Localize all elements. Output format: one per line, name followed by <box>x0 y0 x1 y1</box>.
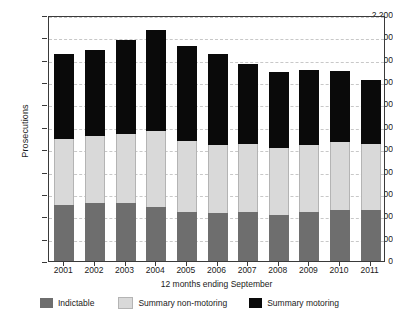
bar-segment-summary-non-motoring <box>238 144 258 212</box>
bar-stack <box>299 15 319 261</box>
bar-segment-summary-non-motoring <box>54 139 74 206</box>
bar-segment-indictable <box>330 210 350 261</box>
bar-segment-summary-non-motoring <box>85 136 105 203</box>
y-axis-tick-mark <box>42 16 47 17</box>
legend-swatch <box>249 298 262 308</box>
y-axis-tick-mark <box>42 150 47 151</box>
bar-segment-indictable <box>238 212 258 261</box>
y-axis-tick-mark <box>42 240 47 241</box>
y-axis-tick-mark <box>42 173 47 174</box>
bar-segment-summary-non-motoring <box>146 131 166 207</box>
bar-stack <box>330 15 350 261</box>
bar-segment-summary-motoring <box>177 46 197 142</box>
bar-stack <box>177 15 197 261</box>
legend-item[interactable]: Summary motoring <box>249 298 339 308</box>
plot-area <box>48 16 385 262</box>
bar-stack <box>116 15 136 261</box>
legend-label: Summary motoring <box>267 298 339 308</box>
bar-segment-indictable <box>54 205 74 261</box>
chart-legend: IndictableSummary non-motoringSummary mo… <box>40 295 380 311</box>
bar-stack <box>85 15 105 261</box>
legend-item[interactable]: Indictable <box>40 298 94 308</box>
bar-segment-indictable <box>299 212 319 261</box>
legend-swatch <box>118 297 133 309</box>
bar-segment-summary-non-motoring <box>177 141 197 212</box>
bar-stack <box>238 15 258 261</box>
bar-stack <box>361 15 381 261</box>
bar-segment-summary-motoring <box>116 40 136 133</box>
y-axis-tick-mark <box>42 128 47 129</box>
x-axis-title: 12 months ending September <box>48 279 385 289</box>
bar-segment-summary-motoring <box>330 71 350 143</box>
legend-label: Indictable <box>58 298 94 308</box>
legend-item[interactable]: Summary non-motoring <box>118 297 227 309</box>
bar-segment-indictable <box>269 215 289 261</box>
bar-segment-summary-motoring <box>208 54 228 145</box>
bar-segment-summary-non-motoring <box>116 134 136 203</box>
bar-segment-summary-motoring <box>361 80 381 144</box>
chart-figure: Prosecutions 02004006008001,0001,2001,40… <box>0 0 393 317</box>
bar-segment-summary-motoring <box>299 70 319 144</box>
bar-segment-indictable <box>146 207 166 261</box>
y-axis-tick-mark <box>42 83 47 84</box>
bar-segment-summary-motoring <box>146 30 166 132</box>
bar-segment-summary-non-motoring <box>299 145 319 213</box>
bar-segment-indictable <box>361 210 381 261</box>
bar-stack <box>146 15 166 261</box>
bar-segment-indictable <box>208 213 228 261</box>
bar-segment-summary-motoring <box>54 54 74 139</box>
legend-label: Summary non-motoring <box>138 298 227 308</box>
bar-stack <box>54 15 74 261</box>
legend-swatch <box>40 298 53 308</box>
bar-segment-summary-non-motoring <box>330 142 350 210</box>
y-axis-tick-mark <box>42 38 47 39</box>
y-axis-tick-mark <box>42 217 47 218</box>
x-axis-tick-label: 2011 <box>350 266 390 275</box>
y-axis-tick-mark <box>42 105 47 106</box>
y-axis-title: Prosecutions <box>20 61 30 201</box>
y-axis-tick-mark <box>42 195 47 196</box>
bar-segment-indictable <box>85 203 105 261</box>
bar-segment-summary-non-motoring <box>361 144 381 210</box>
bar-segment-indictable <box>116 203 136 261</box>
bar-segment-summary-non-motoring <box>208 145 228 214</box>
bar-segment-summary-motoring <box>269 72 289 148</box>
y-axis-tick-mark <box>42 61 47 62</box>
bar-segment-summary-motoring <box>238 64 258 144</box>
y-axis-tick-mark <box>42 262 47 263</box>
bar-stack <box>269 15 289 261</box>
bar-stack <box>208 15 228 261</box>
bar-segment-summary-motoring <box>85 50 105 137</box>
bar-segment-summary-non-motoring <box>269 148 289 215</box>
bar-segment-indictable <box>177 212 197 261</box>
